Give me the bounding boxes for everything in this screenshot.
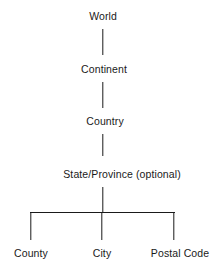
node-postal-code: Postal Code (151, 247, 209, 259)
connector-county (30, 212, 31, 240)
connector-postal-code (173, 212, 174, 240)
connector-world-continent (102, 29, 103, 55)
node-continent: Continent (81, 63, 127, 75)
node-county: County (14, 247, 48, 259)
node-country: Country (86, 115, 123, 127)
connector-state-branch (102, 187, 103, 213)
node-state-province: State/Province (optional) (63, 168, 180, 180)
node-world: World (89, 10, 117, 22)
connector-country-state (102, 134, 103, 156)
connector-city (101, 212, 102, 240)
node-city: City (93, 247, 111, 259)
connector-continent-country (102, 82, 103, 108)
